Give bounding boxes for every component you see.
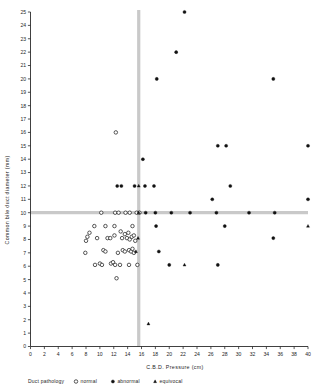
y-tick-label: 14	[20, 156, 26, 162]
data-point-normal	[114, 131, 118, 135]
x-tick-label: 20	[166, 351, 172, 357]
y-tick-label: 18	[20, 103, 26, 109]
data-point-normal	[127, 231, 131, 235]
y-tick-label: 1	[23, 330, 26, 336]
data-point-normal	[128, 211, 132, 215]
data-point-normal	[113, 263, 117, 267]
legend-marker-normal	[74, 380, 78, 384]
x-tick-label: 0	[29, 351, 32, 357]
reference-lines	[31, 10, 309, 347]
data-point-abnormal	[216, 144, 219, 147]
data-point-abnormal	[223, 225, 226, 228]
y-tick-label: 5	[23, 277, 26, 283]
x-tick-label: 36	[277, 351, 283, 357]
data-point-abnormal	[154, 211, 157, 214]
data-point-normal	[95, 236, 99, 240]
y-tick-label: 3	[23, 303, 26, 309]
chart-canvas: 0246810121416182022242628303234363840 01…	[0, 0, 314, 391]
data-point-equivocal	[183, 263, 186, 266]
series-equivocal	[134, 184, 309, 325]
y-tick-label: 0	[23, 343, 26, 349]
x-tick-label: 12	[111, 351, 117, 357]
data-point-normal	[104, 250, 108, 254]
data-point-abnormal	[306, 144, 309, 147]
legend: Duct pathologynormalabnormalequivocal	[28, 378, 183, 384]
data-point-normal	[117, 211, 121, 215]
data-point-abnormal	[133, 184, 136, 187]
x-tick-label: 10	[97, 351, 103, 357]
x-tick-label: 4	[57, 351, 60, 357]
data-point-normal	[132, 234, 136, 238]
x-tick-label: 40	[305, 351, 311, 357]
legend-label-normal: normal	[81, 378, 97, 384]
y-tick-label: 11	[21, 196, 26, 202]
data-point-normal	[131, 224, 135, 228]
series-normal	[84, 131, 142, 280]
data-point-normal	[84, 251, 88, 255]
y-tick-label: 16	[20, 129, 26, 135]
data-point-normal	[134, 239, 138, 243]
data-point-abnormal	[211, 198, 214, 201]
scatter-plot-figure: 0246810121416182022242628303234363840 01…	[0, 0, 314, 391]
data-point-normal	[93, 263, 97, 267]
x-tick-label: 6	[71, 351, 74, 357]
data-point-abnormal	[120, 184, 123, 187]
data-point-abnormal	[215, 211, 218, 214]
data-point-abnormal	[144, 211, 147, 214]
data-point-abnormal	[168, 263, 171, 266]
data-point-equivocal	[147, 322, 150, 325]
x-tick-label: 22	[180, 351, 186, 357]
data-point-abnormal	[272, 77, 275, 80]
data-point-abnormal	[272, 237, 275, 240]
y-tick-label: 20	[20, 76, 26, 82]
y-tick-label: 7	[23, 250, 26, 256]
axes	[31, 12, 309, 347]
data-point-normal	[93, 224, 97, 228]
x-tick-label: 2	[43, 351, 46, 357]
legend-marker-abnormal	[111, 380, 114, 383]
x-tick-label: 38	[291, 351, 297, 357]
data-point-normal	[124, 211, 128, 215]
x-axis-ticks: 0246810121416182022242628303234363840	[29, 347, 311, 357]
data-point-abnormal	[141, 158, 144, 161]
x-axis-title: C.B.D. Pressure (cm)	[146, 364, 203, 370]
x-tick-label: 16	[139, 351, 145, 357]
data-point-equivocal	[306, 224, 309, 227]
data-point-abnormal	[170, 211, 173, 214]
y-axis-title: Common bile duct diameter (mm)	[4, 155, 10, 244]
y-tick-label: 22	[20, 49, 26, 55]
data-point-normal	[123, 232, 127, 236]
legend-label-abnormal: abnormal	[117, 378, 139, 384]
y-tick-label: 4	[23, 290, 26, 296]
x-tick-label: 32	[250, 351, 256, 357]
data-point-abnormal	[155, 77, 158, 80]
x-tick-label: 8	[85, 351, 88, 357]
y-tick-label: 24	[20, 22, 26, 28]
x-tick-label: 14	[125, 351, 131, 357]
data-point-normal	[136, 263, 140, 267]
data-point-normal	[113, 211, 117, 215]
y-tick-label: 17	[20, 116, 26, 122]
data-point-normal	[119, 230, 123, 234]
x-tick-label: 34	[264, 351, 270, 357]
data-point-abnormal	[116, 184, 119, 187]
data-point-abnormal	[189, 211, 192, 214]
data-point-abnormal	[229, 184, 232, 187]
y-tick-label: 13	[20, 169, 26, 175]
legend-label-equivocal: equivocal	[160, 378, 183, 384]
data-point-normal	[86, 235, 90, 239]
data-point-normal	[104, 224, 108, 228]
y-tick-label: 23	[20, 36, 26, 42]
x-tick-label: 24	[194, 351, 200, 357]
data-point-normal	[131, 247, 135, 251]
data-points	[84, 10, 310, 324]
data-point-normal	[88, 231, 92, 235]
x-tick-label: 26	[208, 351, 214, 357]
y-tick-label: 25	[20, 9, 26, 15]
y-axis-ticks: 0123456789101112131415161718192021222324…	[20, 9, 30, 350]
data-point-normal	[115, 277, 119, 281]
data-point-abnormal	[306, 198, 309, 201]
data-point-abnormal	[273, 211, 276, 214]
data-point-abnormal	[225, 144, 228, 147]
data-point-abnormal	[152, 184, 155, 187]
